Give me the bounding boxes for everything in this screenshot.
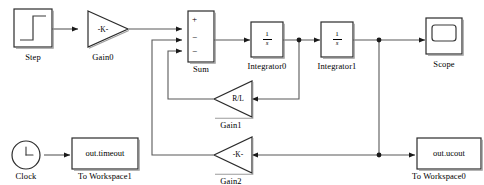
block-label-gain2: Gain2 (207, 177, 255, 185)
block-label-integrator0: Integrator0 (234, 62, 300, 71)
gain1-value: R/L (225, 95, 251, 103)
junction-integrator0-output (297, 38, 302, 43)
junction-gain2-feedback (377, 153, 382, 158)
sum-sign-2: − (192, 33, 197, 42)
gain0-value: -K- (86, 26, 120, 34)
sum-sign-3: − (192, 47, 197, 56)
integrator1-numerator: 1 (321, 31, 353, 38)
block-label-gain0: Gain0 (79, 53, 127, 62)
block-label-gain1: Gain1 (207, 121, 255, 130)
integrator0-denominator: s (251, 40, 283, 47)
integrator1-transfer-function: 1 s (321, 31, 353, 48)
block-diagram-canvas: Step -K- Gain0 + − − Sum 1 s Integrator0… (0, 0, 484, 185)
toworkspace1-variable: out.timeout (72, 149, 138, 158)
integrator0-numerator: 1 (251, 31, 283, 38)
scope-screen-icon (432, 25, 456, 41)
block-label-toworkspace0: To Workspace0 (396, 172, 482, 181)
sum-sign-1: + (192, 15, 197, 24)
gain2-value: -K- (225, 151, 251, 159)
junction-integrator1-output (377, 38, 382, 43)
integrator0-transfer-function: 1 s (251, 31, 283, 48)
block-label-integrator1: Integrator1 (304, 62, 370, 71)
block-label-step: Step (4, 53, 62, 62)
block-label-clock: Clock (2, 172, 50, 181)
block-label-toworkspace1: To Workspace1 (62, 172, 148, 181)
block-label-sum: Sum (177, 65, 225, 74)
block-label-scope: Scope (416, 60, 472, 69)
integrator1-denominator: s (321, 40, 353, 47)
toworkspace0-variable: out.ucout (417, 149, 481, 158)
